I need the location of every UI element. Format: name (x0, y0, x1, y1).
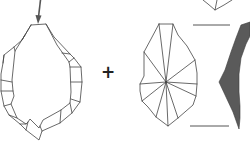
flake-dorsal-view (140, 24, 197, 126)
core-outline (1, 24, 82, 140)
top-partial-drawing (203, 0, 232, 10)
flake-profile-section (219, 22, 250, 129)
plus-sign: + (101, 64, 115, 81)
diagram-canvas (0, 0, 250, 142)
lithic-diagram: + (0, 0, 250, 142)
percussion-arrow-icon (36, 0, 42, 24)
